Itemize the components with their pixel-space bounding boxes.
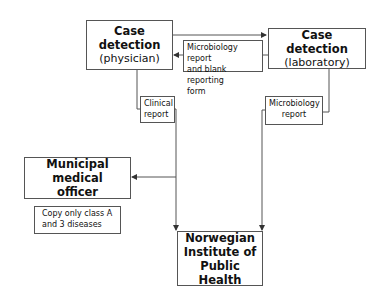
node-title: Municipal medical (25, 157, 130, 185)
node-title: Case detection (87, 24, 172, 52)
node-subtitle: (physician) (99, 52, 160, 66)
node-title: Institute of (184, 245, 257, 259)
label-line: report (269, 109, 319, 120)
label-line: and blank reporting (187, 64, 259, 86)
label-line: report (144, 109, 171, 120)
node-subtitle: (laboratory) (284, 56, 349, 70)
label-line: Microbiology (269, 98, 319, 109)
node-title: Case detection (269, 28, 365, 56)
arrow-physician-to-institute (175, 109, 176, 230)
label-microbiology-report: Microbiology report (265, 96, 323, 125)
node-title: Public Health (178, 259, 262, 287)
label-line: form (187, 86, 259, 97)
node-title: Norwegian (185, 231, 255, 245)
node-norwegian-institute-of-public-health: Norwegian Institute of Public Health (177, 231, 263, 286)
node-municipal-medical-officer: Municipal medical officer (24, 157, 131, 199)
label-microbiology-report-and-form: Microbiology report and blank reporting … (183, 40, 263, 72)
label-line: Copy only class A (42, 208, 117, 219)
label-line: and 3 diseases (42, 219, 117, 230)
label-line: Clinical (144, 98, 171, 109)
label-clinical-report: Clinical report (140, 96, 175, 123)
node-case-detection-physician: Case detection (physician) (86, 20, 173, 70)
label-line: Microbiology report (187, 42, 259, 64)
arrow-lab-to-institute (262, 110, 265, 230)
node-title: officer (57, 185, 98, 199)
node-case-detection-laboratory: Case detection (laboratory) (268, 28, 366, 69)
label-copy-only-class-a: Copy only class A and 3 diseases (34, 206, 121, 234)
